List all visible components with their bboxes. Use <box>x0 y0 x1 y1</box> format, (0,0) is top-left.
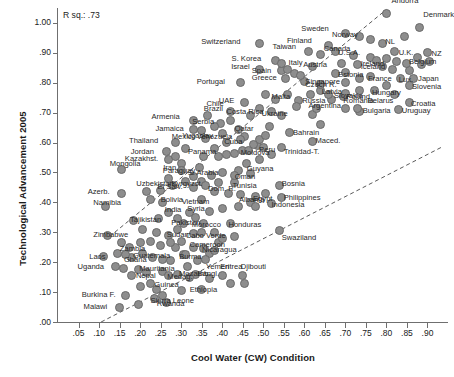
data-point <box>146 237 155 246</box>
data-point <box>226 116 235 125</box>
point-label: Azerb. <box>88 188 110 196</box>
point-label: Italy <box>289 59 303 67</box>
data-point <box>296 71 305 80</box>
point-label: Serbia <box>192 118 214 126</box>
point-label: Nepal <box>136 272 156 280</box>
point-label: Albania <box>239 196 264 204</box>
point-label: Maced. <box>316 137 341 145</box>
point-label: Belarus <box>368 97 394 105</box>
point-label: Djibouti <box>241 263 266 271</box>
y-tick-label: .00 <box>17 318 51 327</box>
point-label: Armenia <box>151 113 179 121</box>
chart-root: Technological Advancement 2005 Cool Wate… <box>0 0 454 377</box>
point-label: Dom. R. <box>208 185 236 193</box>
point-label: Nicaragua <box>202 246 237 254</box>
point-label: Thailand <box>129 137 158 145</box>
point-label: Bulgaria <box>363 107 391 115</box>
data-point <box>388 65 397 74</box>
point-label: Denmark <box>423 11 454 19</box>
data-point <box>136 282 145 291</box>
point-label: Greece <box>252 74 277 82</box>
point-label: Ethiopia <box>190 286 217 294</box>
data-point <box>119 264 128 273</box>
point-label: Oman <box>235 173 256 181</box>
point-label: Morocco <box>192 221 221 229</box>
y-tick-label: 1.00 <box>17 18 51 27</box>
data-point <box>171 152 180 161</box>
point-label: Bangl. <box>198 270 220 278</box>
point-label: Medag. <box>167 273 192 281</box>
point-label: Israel <box>231 63 250 71</box>
point-label: Bolivia <box>161 196 183 204</box>
point-label: Uzbekistan <box>136 180 174 188</box>
point-label: Norway <box>332 31 358 39</box>
data-point <box>152 228 161 237</box>
y-tick-label: .80 <box>17 78 51 87</box>
data-point <box>261 90 270 99</box>
point-label: Guinea <box>154 281 179 289</box>
y-tick-label: .60 <box>17 138 51 147</box>
point-label: France <box>368 75 392 83</box>
data-point <box>240 98 249 107</box>
data-point <box>226 279 235 288</box>
data-point <box>230 149 239 158</box>
point-label: Swaziland <box>282 234 317 242</box>
point-label: Slovenia <box>412 83 441 91</box>
data-point <box>261 131 270 140</box>
point-label: Tajikistan <box>130 216 161 224</box>
point-label: Argentina <box>309 102 342 110</box>
y-tick-label: .50 <box>17 168 51 177</box>
data-point <box>240 279 249 288</box>
point-label: Uganda <box>77 263 104 271</box>
point-label: Taiwan <box>272 43 296 51</box>
data-point <box>366 35 375 44</box>
data-point <box>117 189 126 198</box>
data-point <box>218 204 227 213</box>
y-tick-label: .40 <box>17 198 51 207</box>
point-label: Iceland <box>361 63 386 71</box>
point-label: Syria <box>187 205 204 213</box>
data-point <box>146 195 155 204</box>
point-label: Burkina F. <box>82 291 116 299</box>
point-label: Paraguay <box>163 167 196 175</box>
point-label: Tunisia <box>233 182 257 190</box>
point-label: NL <box>385 38 395 46</box>
scatter-plot-area: AndorraDenmarkSwedenNorwayFinlandU.S.A.N… <box>58 8 448 322</box>
y-axis: .00.10.20.30.40.50.60.70.80.901.00 <box>18 8 58 322</box>
y-tick-label: .20 <box>17 258 51 267</box>
point-label: Andorra <box>391 0 418 5</box>
data-point <box>138 225 147 234</box>
point-label: Panama <box>188 148 216 156</box>
point-label: Peru <box>259 146 275 154</box>
point-label: Mongolia <box>110 160 141 168</box>
point-label: Zimbabwe <box>93 231 128 239</box>
point-label: Indonesia <box>271 201 304 209</box>
point-label: Estonia <box>338 71 363 79</box>
point-label: Malawi <box>84 303 108 311</box>
point-label: Eritrea <box>220 263 242 271</box>
point-label: Malta <box>272 93 291 101</box>
point-label: Cuba <box>224 138 242 146</box>
x-axis-title: Cool Water (CW) Condition <box>58 352 448 363</box>
point-label: Canada <box>324 45 351 53</box>
data-point <box>222 150 231 159</box>
point-label: Uruguay <box>402 107 431 115</box>
point-label: Qatar <box>235 125 254 133</box>
data-point <box>304 47 313 56</box>
point-label: Portugal <box>197 78 225 86</box>
point-label: Brazil <box>204 105 223 113</box>
point-label: Lux. <box>399 76 413 84</box>
point-label: Namibia <box>93 199 121 207</box>
data-point <box>121 291 130 300</box>
point-label: Switzerland <box>201 38 240 46</box>
point-label: Trinidad-T. <box>284 148 320 156</box>
y-tick-label: .10 <box>17 288 51 297</box>
y-tick-label: .90 <box>17 48 51 57</box>
point-label: Rwanda <box>157 300 185 308</box>
point-label: India <box>165 206 181 214</box>
point-label: Cabo Verde <box>186 232 226 240</box>
x-axis: .05.10.15.20.25.30.35.40.45.50.55.60.65.… <box>58 323 448 343</box>
point-label: Ukraine <box>261 110 287 118</box>
y-tick-label: .30 <box>17 228 51 237</box>
point-label: Honduras <box>228 221 261 229</box>
